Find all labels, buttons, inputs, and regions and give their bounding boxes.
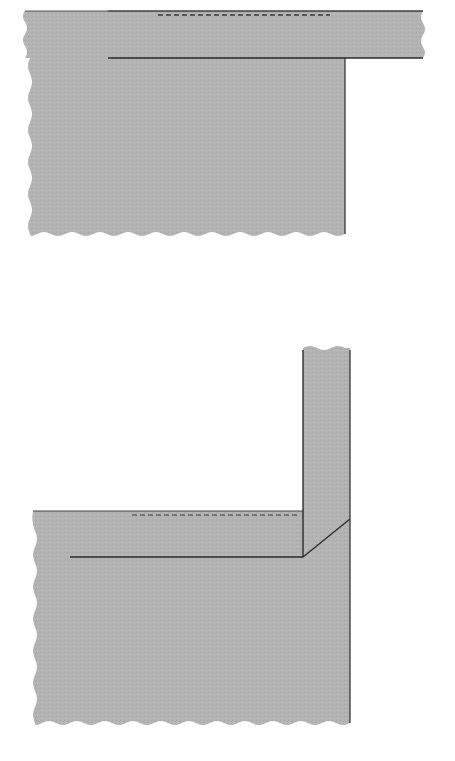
fabric-strip <box>23 11 425 58</box>
fabric-panel <box>28 58 345 236</box>
sewing-diagram <box>0 0 455 761</box>
top-figure <box>23 11 425 236</box>
bottom-figure <box>32 346 350 725</box>
